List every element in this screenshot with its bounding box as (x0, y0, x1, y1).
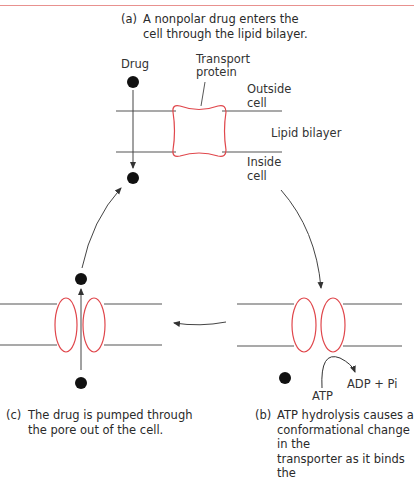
caption-c-text: The drug is pumped through the pore out … (6, 408, 192, 437)
label-transport-protein: Transport protein (196, 53, 250, 79)
cycle-arrow-a-to-b (281, 190, 321, 288)
transport-protein-a (173, 106, 226, 157)
membrane-b (237, 304, 402, 346)
caption-a: (a) A nonpolar drug enters the cell thro… (121, 12, 308, 41)
transport-protein-leader (201, 82, 205, 106)
cycle-arrow-b-to-c (174, 322, 226, 325)
membrane-a (116, 111, 282, 152)
label-atp: ATP (312, 389, 333, 403)
label-inside-cell: Inside cell (247, 155, 281, 183)
transporter-half-right-b (321, 298, 345, 352)
transporter-half-left-c (55, 298, 77, 352)
caption-a-text: A nonpolar drug enters the cell through … (121, 12, 308, 41)
label-adp-pi: ADP + Pi (347, 377, 397, 391)
caption-b-text: ATP hydrolysis causes a conformational c… (255, 408, 414, 481)
drug-molecule-below-c (75, 377, 87, 389)
label-outside-cell: Outside cell (247, 82, 291, 110)
drug-molecule-outside (127, 76, 139, 88)
label-lipid-bilayer: Lipid bilayer (271, 126, 341, 140)
cycle-arrow-c-to-a (82, 188, 121, 268)
caption-b: (b) ATP hydrolysis causes a conformation… (255, 408, 414, 481)
label-drug: Drug (121, 57, 149, 71)
drug-molecule-inside (127, 172, 139, 184)
transporter-half-left-b (292, 298, 316, 352)
caption-c: (c) The drug is pumped through the pore … (6, 408, 192, 437)
drug-molecule-pumped-out (75, 273, 87, 285)
caption-b-tag: (b) (255, 408, 271, 423)
transporter-half-right-c (83, 298, 105, 352)
caption-a-tag: (a) (121, 12, 137, 27)
caption-c-tag: (c) (6, 408, 21, 423)
drug-molecule-b (279, 372, 291, 384)
